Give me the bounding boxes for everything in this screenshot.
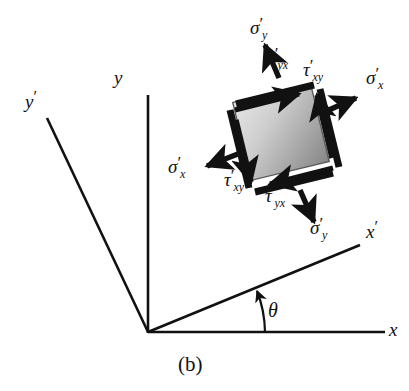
subscript-text: y <box>322 228 327 242</box>
label-tau-yx-prime-top: τ′yx <box>268 48 289 67</box>
figure-caption: (b) <box>178 352 203 377</box>
y-prime-axis-line <box>47 118 148 332</box>
tau-glyph: τ <box>224 169 231 190</box>
sigma-x-prime-left-arrow <box>207 152 243 166</box>
x-prime-axis-line <box>148 245 360 332</box>
theta-label-text: θ <box>268 299 278 321</box>
sigma-glyph: σ <box>168 156 177 177</box>
subscript-text: x <box>180 167 185 181</box>
tau-glyph: τ <box>265 185 272 206</box>
label-tau-xy-prime-left: τ′xy <box>224 170 245 189</box>
axis-label-x: x <box>389 320 397 339</box>
subscript-text: xy <box>313 70 324 84</box>
axis-label-x-prime: x′ <box>366 222 378 241</box>
tau-glyph: τ <box>303 59 310 80</box>
sigma-glyph: σ <box>250 17 259 38</box>
label-sigma-x-prime-right: σ′x <box>366 68 384 87</box>
axis-label-y: y <box>114 68 122 87</box>
figure-canvas: y y′ x x′ θ σ′y τ′yx τ′xy σ′x σ′x τ′xy τ… <box>0 0 409 391</box>
theta-label: θ <box>268 300 278 320</box>
stress-diagram-svg <box>0 0 409 391</box>
axis-label-y-prime: y′ <box>25 92 37 111</box>
theta-angle-arc <box>257 291 265 332</box>
subscript-text: xy <box>234 180 245 194</box>
label-sigma-x-prime-left: σ′x <box>168 157 186 176</box>
subscript-text: yx <box>275 196 286 210</box>
subscript-text: yx <box>278 58 289 72</box>
label-tau-yx-prime-bottom: τ′yx <box>265 186 286 205</box>
subscript-text: x <box>378 78 383 92</box>
axis-lines <box>47 95 385 333</box>
axis-label-y-prime-mark: ′ <box>33 88 37 105</box>
sigma-glyph: σ <box>366 67 375 88</box>
axis-label-x-prime-mark: ′ <box>374 218 378 235</box>
axis-label-y-text: y <box>114 67 122 88</box>
label-sigma-y-prime-top: σ′y <box>250 18 268 37</box>
tau-glyph: τ <box>268 47 275 68</box>
label-tau-xy-prime-right: τ′xy <box>303 60 324 79</box>
subscript-text: y <box>262 28 267 42</box>
sigma-glyph: σ <box>310 217 319 238</box>
label-sigma-y-prime-bottom: σ′y <box>310 218 328 237</box>
axis-label-x-text: x <box>389 319 397 340</box>
